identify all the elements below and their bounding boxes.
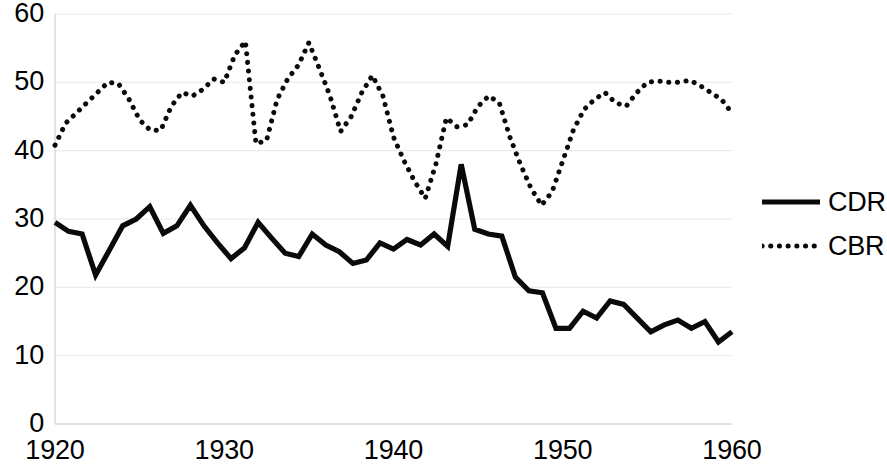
legend-label: CDR <box>828 189 886 216</box>
x-axis-tick-label: 1930 <box>169 437 279 464</box>
y-axis-tick-label: 30 <box>0 205 44 232</box>
x-axis-tick-label: 1960 <box>677 437 787 464</box>
legend: CDRCBR <box>762 180 887 268</box>
y-axis-tick-label: 40 <box>0 137 44 164</box>
y-axis-tick-label: 60 <box>0 0 44 27</box>
data-series <box>55 41 732 342</box>
x-axis-tick-label: 1920 <box>0 437 110 464</box>
legend-label: CBR <box>828 233 884 260</box>
series-line-cdr <box>55 164 732 342</box>
line-chart: 6050403020100 19201930194019501960 CDRCB… <box>0 0 887 475</box>
y-axis-tick-label: 10 <box>0 342 44 369</box>
plot-svg <box>55 14 732 424</box>
y-axis-tick-label: 0 <box>0 410 44 437</box>
y-axis-tick-label: 20 <box>0 273 44 300</box>
legend-swatch-cdr-icon <box>762 194 820 210</box>
legend-item-cdr[interactable]: CDR <box>762 180 887 224</box>
x-axis-tick-label: 1940 <box>339 437 449 464</box>
y-axis-tick-label: 50 <box>0 68 44 95</box>
legend-item-cbr[interactable]: CBR <box>762 224 887 268</box>
plot-area <box>55 14 732 424</box>
x-axis-tick-label: 1950 <box>508 437 618 464</box>
legend-swatch-cbr-icon <box>762 238 820 254</box>
series-line-cbr <box>55 41 732 205</box>
